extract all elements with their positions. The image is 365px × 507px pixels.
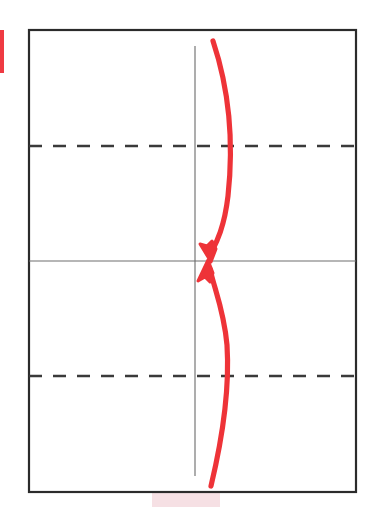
left-edge-red-marker <box>0 30 4 73</box>
diagram-canvas <box>0 0 365 507</box>
background-rect <box>0 0 365 507</box>
figure-root <box>0 0 365 507</box>
bottom-watermark-band <box>152 491 220 507</box>
